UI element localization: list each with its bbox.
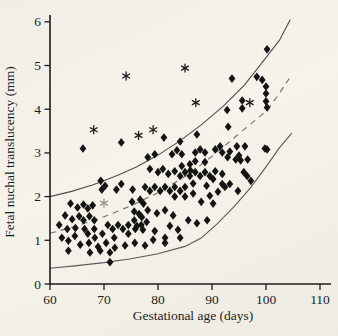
diamond-marker xyxy=(107,258,114,267)
diamond-marker xyxy=(193,219,200,228)
y-tick-label: 1 xyxy=(34,233,41,248)
diamond-marker xyxy=(72,224,79,233)
diamond-marker xyxy=(185,216,192,225)
diamond-marker xyxy=(263,97,270,106)
diamond-marker xyxy=(65,236,72,245)
diamond-marker xyxy=(170,211,177,220)
diamond-marker xyxy=(190,179,197,188)
diamond-marker xyxy=(118,180,125,189)
asterisk-marker xyxy=(123,72,130,80)
diamond-marker xyxy=(56,221,63,230)
x-tick-label: 90 xyxy=(205,292,219,307)
diamond-marker xyxy=(64,225,71,234)
diamond-marker xyxy=(202,158,209,167)
diamond-marker xyxy=(204,216,211,225)
diamond-marker xyxy=(244,155,251,164)
y-tick-label: 2 xyxy=(34,189,41,204)
diamond-marker xyxy=(58,233,65,242)
y-tick-label: 4 xyxy=(34,102,41,117)
diamond-marker xyxy=(111,233,118,242)
diamond-marker xyxy=(187,166,194,175)
asterisk-marker xyxy=(135,131,142,139)
scanned-figure-page: 012345660708090100110 Fetal nuchal trans… xyxy=(0,0,338,336)
diamond-marker xyxy=(111,243,118,252)
diamond-marker xyxy=(129,198,136,207)
diamond-marker xyxy=(125,221,132,230)
diamond-marker xyxy=(77,240,84,249)
nt-scatter-plot: 012345660708090100110 Fetal nuchal trans… xyxy=(0,0,338,336)
curve-upper-centile-95th xyxy=(50,20,290,197)
diamond-marker xyxy=(65,246,72,255)
x-tick-label: 100 xyxy=(256,292,277,307)
diamond-marker xyxy=(125,229,132,238)
y-tick-label: 6 xyxy=(34,14,41,29)
data-points xyxy=(56,45,271,266)
y-tick-label: 5 xyxy=(34,58,41,73)
diamond-marker xyxy=(203,181,210,190)
diamond-marker xyxy=(154,209,161,218)
diamond-marker xyxy=(69,215,76,224)
diamond-marker xyxy=(166,222,173,231)
diamond-marker xyxy=(71,232,78,241)
x-tick-label: 80 xyxy=(151,292,165,307)
diamond-marker xyxy=(67,199,74,208)
diamond-marker xyxy=(175,226,182,235)
diamond-marker xyxy=(142,241,149,250)
diamond-marker xyxy=(219,170,226,179)
diamond-marker xyxy=(225,122,232,131)
diamond-marker xyxy=(224,106,231,115)
diamond-marker xyxy=(151,150,158,159)
diamond-marker xyxy=(171,167,178,176)
diamond-marker xyxy=(198,198,205,207)
diamond-marker xyxy=(87,248,94,257)
diamond-marker xyxy=(103,239,110,248)
x-axis-title: Gestational age (days) xyxy=(133,308,254,323)
x-tick-label: 110 xyxy=(310,292,330,307)
y-tick-label: 0 xyxy=(34,277,41,292)
diamond-marker xyxy=(165,170,172,179)
y-tick-label: 3 xyxy=(34,145,41,160)
diamond-marker xyxy=(162,239,169,248)
diamond-marker xyxy=(151,227,158,236)
diamond-marker xyxy=(193,130,200,139)
diamond-marker xyxy=(233,142,240,151)
diamond-marker xyxy=(182,192,189,201)
x-tick-label: 70 xyxy=(97,292,111,307)
diamond-marker xyxy=(171,192,178,201)
asterisk-marker xyxy=(182,64,189,72)
diamond-marker xyxy=(150,236,157,245)
asterisk-marker xyxy=(101,199,108,207)
diamond-marker xyxy=(144,153,151,162)
diamond-marker xyxy=(62,211,69,220)
diamond-marker xyxy=(177,233,184,242)
diamond-marker xyxy=(242,142,249,151)
diamond-marker xyxy=(118,138,125,147)
asterisk-marker xyxy=(246,99,253,107)
diamond-marker xyxy=(99,229,106,238)
diamond-marker xyxy=(144,206,151,215)
diamond-marker xyxy=(129,185,136,194)
diamond-marker xyxy=(162,206,169,215)
y-axis-title: Fetal nuchal translucency (mm) xyxy=(2,66,17,237)
diamond-marker xyxy=(212,167,219,176)
diamond-marker xyxy=(113,185,120,194)
diamond-marker xyxy=(215,187,222,196)
asterisk-marker xyxy=(192,99,199,107)
axis-ticks-and-labels: 012345660708090100110 xyxy=(34,14,330,307)
diamond-marker xyxy=(131,239,138,248)
diamond-marker xyxy=(210,199,217,208)
diamond-marker xyxy=(74,203,81,212)
diamond-marker xyxy=(91,233,98,242)
x-tick-label: 60 xyxy=(43,292,57,307)
asterisk-marker xyxy=(150,126,157,134)
diamond-marker xyxy=(190,189,197,198)
diamond-marker xyxy=(161,133,168,142)
diamond-marker xyxy=(85,239,92,248)
diamond-marker xyxy=(147,165,154,174)
diamond-marker xyxy=(91,225,98,234)
diamond-marker xyxy=(239,104,246,113)
diamond-marker xyxy=(263,89,270,98)
diamond-marker xyxy=(107,248,114,257)
diamond-marker xyxy=(264,103,271,112)
diamond-marker xyxy=(122,241,129,250)
